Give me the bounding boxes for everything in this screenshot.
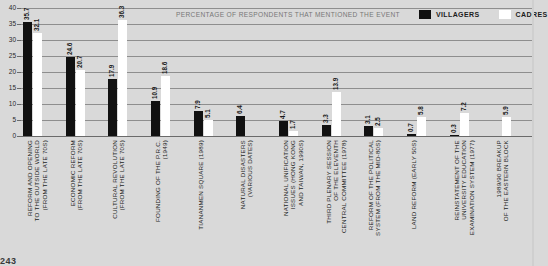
bar-villagers: 0.7 (407, 134, 416, 136)
bar-value-label: 7.9 (193, 100, 200, 109)
bar-cadres: 13.9 (332, 92, 341, 136)
y-tick-label: 5 (0, 116, 16, 123)
bar-value-label: 1.7 (289, 120, 296, 129)
bar-value-label: 2.5 (374, 117, 381, 126)
category-label: FOUNDING OF THE P.R.C.(1949) (154, 140, 169, 260)
x-axis-category-labels: REFORM AND OPENINGTO THE OUTSIDE WORLD(F… (21, 140, 533, 260)
bar-group: 6.4 (236, 8, 275, 136)
category-label-line: ISSUES (HONG KONG (289, 140, 296, 260)
category-label: THIRD PLENARY SESSIONOF THE ELEVENTHCENT… (325, 140, 347, 260)
category-label: NATIONAL UNIFICATIONISSUES (HONG KONGAND… (282, 140, 304, 260)
category-label-line: OF THE EASTERN BLOCK (503, 140, 510, 260)
bar-group: 7.95.1 (194, 8, 233, 136)
bar-group: 3.12.5 (364, 8, 403, 136)
category-label-line: EXAMINATION SYSTEM (1977) (467, 140, 474, 260)
y-tick-label: 30 (0, 36, 16, 43)
category-label-line: (FROM THE LATE 70S) (119, 140, 126, 260)
y-tick-label: 0 (0, 132, 16, 139)
category-label-line: UNIVERSITY EDUCATION (460, 140, 467, 260)
y-tick-label: 40 (0, 4, 16, 11)
category-label: REFORM OF THE POLITICALSYSTEM (FROM THE … (367, 140, 382, 260)
bar-villagers: 7.9 (194, 111, 203, 136)
category-label-line: LAND REFORM (EARLY 50S) (410, 140, 417, 260)
bar-villagers: 24.6 (66, 57, 75, 136)
bar-cadres: 32.1 (33, 33, 42, 136)
bar-villagers: 3.1 (364, 126, 373, 136)
category-label-line: (FROM THE LATE 70S) (41, 140, 48, 260)
category-label: LAND REFORM (EARLY 50S) (410, 140, 417, 260)
bar-value-label: 5.8 (417, 107, 424, 116)
bar-group: 17.936.3 (108, 8, 147, 136)
bar-cadres: 2.5 (374, 128, 383, 136)
bar-villagers: 17.9 (108, 79, 117, 136)
bar-value-label: 17.9 (108, 64, 115, 76)
category-label-line: CENTRAL COMMITTEE (1978) (339, 140, 346, 260)
bar-group: 3.313.9 (322, 8, 361, 136)
category-label-line: THIRD PLENARY SESSION (325, 140, 332, 260)
y-tick-label: 15 (0, 84, 16, 91)
bar-cadres: 5.9 (502, 117, 511, 136)
category-label-line: AND TAIWAN, 1990S) (297, 140, 304, 260)
category-label: REINSTATEMENT OF THEUNIVERSITY EDUCATION… (453, 140, 475, 260)
category-label: REFORM AND OPENINGTO THE OUTSIDE WORLD(F… (26, 140, 48, 260)
category-label-line: REINSTATEMENT OF THE (453, 140, 460, 260)
category-label-line: SYSTEM (FROM THE MID-80S) (375, 140, 382, 260)
bar-value-label: 6.4 (236, 105, 243, 114)
right-edge-strip (532, 0, 534, 266)
category-label-line: NATIONAL UNIFICATION (282, 140, 289, 260)
bar-villagers: 0.3 (450, 135, 459, 136)
category-label-line: FOUNDING OF THE P.R.C. (154, 140, 161, 260)
bar-value-label: 7.2 (459, 102, 466, 111)
y-tick-label: 25 (0, 52, 16, 59)
gridline (21, 136, 533, 137)
bar-value-label: 20.7 (75, 56, 82, 68)
bar-cadres: 18.6 (161, 76, 170, 136)
y-tick-label: 20 (0, 68, 16, 75)
bar-villagers: 6.4 (236, 116, 245, 136)
category-label-line: (FROM THE LATE 70S) (76, 140, 83, 260)
bar-value-label: 13.9 (331, 77, 338, 89)
bar-group: 4.71.7 (279, 8, 318, 136)
plot-area: 0510152025303540 35.732.124.620.717.936.… (21, 8, 533, 136)
bar-group: 0.37.2 (450, 8, 489, 136)
bar-cadres: 20.7 (76, 70, 85, 136)
bar-villagers: 4.7 (279, 121, 288, 136)
bar-villagers: 3.3 (322, 125, 331, 136)
bar-value-label: 4.7 (279, 110, 286, 119)
bar-value-label: 5.1 (203, 109, 210, 118)
bar-group: 35.732.1 (23, 8, 62, 136)
bar-cadres: 7.2 (460, 113, 469, 136)
category-label-line: TIANANMEN SQUARE (1989) (197, 140, 204, 260)
category-label: CULTURAL REVOLUTION(FROM THE LATE 70S) (111, 140, 126, 260)
bar-cadres: 5.8 (417, 117, 426, 136)
y-tick-label: 35 (0, 20, 16, 27)
bar-value-label: 0.7 (407, 123, 414, 132)
bar-villagers: 35.7 (23, 22, 32, 136)
bar-group: 10.918.6 (151, 8, 190, 136)
category-label-line: (1949) (161, 140, 168, 260)
bar-value-label: 10.9 (151, 87, 158, 99)
bar-value-label: 35.7 (23, 8, 30, 20)
bar-group: 5.9 (492, 8, 531, 136)
bar-cadres: 36.3 (118, 20, 127, 136)
bar-villagers: 10.9 (151, 101, 160, 136)
bar-value-label: 36.3 (118, 6, 125, 18)
category-label-line: OF THE ELEVENTH (332, 140, 339, 260)
category-label: 1989/90 BREAKUPOF THE EASTERN BLOCK (495, 140, 510, 260)
category-label-line: ECONOMIC REFORM (69, 140, 76, 260)
bar-value-label: 5.9 (502, 106, 509, 115)
category-label: TIANANMEN SQUARE (1989) (197, 140, 204, 260)
bar-value-label: 3.3 (321, 115, 328, 124)
bar-cadres: 1.7 (289, 131, 298, 136)
bar-cadres: 5.1 (204, 120, 213, 136)
bar-group: 24.620.7 (66, 8, 105, 136)
bar-value-label: 24.6 (65, 43, 72, 55)
y-tick-label: 10 (0, 100, 16, 107)
category-label: ECONOMIC REFORM(FROM THE LATE 70S) (69, 140, 84, 260)
category-label-line: (VARIOUS DATES) (247, 140, 254, 260)
bar-group: 0.75.8 (407, 8, 446, 136)
bar-value-label: 0.3 (449, 124, 456, 133)
category-label-line: REFORM AND OPENING (26, 140, 33, 260)
bar-value-label: 32.1 (33, 19, 40, 31)
